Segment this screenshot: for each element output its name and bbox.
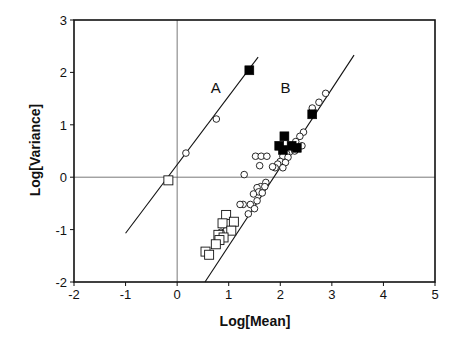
open-circle-marker [262,183,269,190]
open-circle-marker [280,164,287,171]
axis-ticks: -2-1012345-2-10123 [55,13,438,302]
open-circle-marker [237,201,244,208]
scatter-chart: AB -2-1012345-2-10123 Log[Mean] Log[Vari… [0,0,450,339]
y-tick-label: -2 [55,275,67,290]
open-circle-marker [316,99,323,106]
open-circle-marker [322,90,329,97]
y-tick-label: 0 [60,170,67,185]
x-axis-title: Log[Mean] [220,313,291,329]
open-circle-marker [259,190,266,197]
filled-square-marker [280,132,289,141]
x-tick-label: -2 [68,287,80,302]
x-tick-label: 5 [431,287,438,302]
frame-border [74,20,435,282]
plot-frame [74,20,435,282]
y-tick-label: 1 [60,118,67,133]
open-circle-marker [256,162,263,169]
open-circle-marker [250,191,257,198]
open-square-marker [211,240,220,249]
open-circle-marker [269,163,276,170]
open-square-marker [205,250,214,259]
filled-square-marker [292,143,301,152]
line-label-a: A [211,79,221,96]
open-square-marker [218,219,227,228]
x-tick-label: -1 [120,287,132,302]
line-label-b: B [280,79,290,96]
y-tick-label: 3 [60,13,67,28]
x-tick-label: 0 [174,287,181,302]
open-circle-marker [183,150,190,157]
open-circle-marker [264,153,271,160]
filled-square-marker [308,110,317,119]
open-circle-marker [213,116,220,123]
y-tick-label: 2 [60,65,67,80]
filled-square-marker [278,145,287,154]
open-square-marker [164,176,173,185]
open-circle-marker [241,171,248,178]
x-tick-label: 1 [225,287,232,302]
x-tick-label: 2 [277,287,284,302]
open-circle-marker [254,197,261,204]
filled-square-marker [245,66,254,75]
y-tick-label: -1 [55,223,67,238]
y-axis-title: Log[Variance] [27,104,43,197]
x-tick-label: 3 [328,287,335,302]
x-tick-label: 4 [380,287,387,302]
open-circle-marker [251,205,258,212]
open-circle-marker [245,211,252,218]
open-square-marker [229,217,238,226]
plot-area: AB [74,20,435,282]
